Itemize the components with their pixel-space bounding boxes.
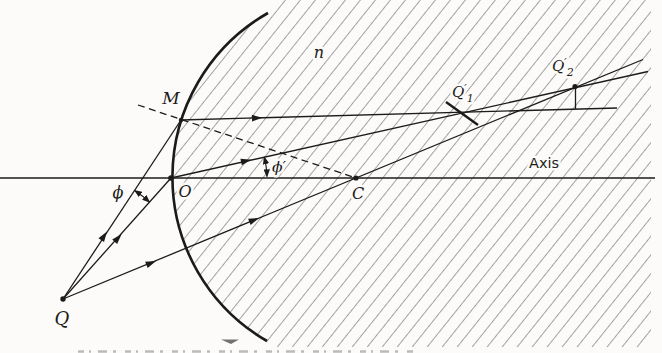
label-axis: Axis <box>529 155 559 171</box>
optics-refraction-figure: M n O C Q Axis ϕ ϕ′ Q′1 Q′2 <box>0 0 662 353</box>
point-q-dot <box>60 296 65 301</box>
label-point-o: O <box>178 182 191 201</box>
point-m-dot <box>179 118 183 122</box>
label-point-m: M <box>161 88 180 108</box>
glass-region-hatching <box>171 0 651 347</box>
figure-canvas: M n O C Q Axis ϕ ϕ′ Q′1 Q′2 <box>0 0 662 353</box>
label-point-q: Q <box>55 308 70 329</box>
label-point-c: C <box>352 184 364 203</box>
label-medium-index-n: n <box>314 43 324 62</box>
label-angle-phi: ϕ <box>113 183 124 202</box>
point-c-dot <box>353 175 358 180</box>
point-o-dot <box>168 175 174 181</box>
point-q2-dot <box>572 84 577 89</box>
label-angle-phi-prime: ϕ′ <box>272 158 287 176</box>
